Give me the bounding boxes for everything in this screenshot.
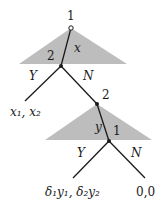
offer-label-y: y [94,120,102,134]
reject-label-2: N [130,146,142,160]
offer-triangle-1 [19,28,127,64]
payoff-accept-2: δ₁y₁, δ₂y₂ [45,185,100,199]
root-player-label: 1 [67,9,75,23]
responder-2-player-label: 1 [113,124,121,138]
proposer-2-player-label: 2 [102,88,110,102]
responder-node-2 [107,139,111,143]
accept-label-2: Y [77,146,86,160]
responder-node-1 [59,64,63,68]
offer-label-x: x [74,41,81,55]
payoff-reject-2: 0,0 [136,185,155,199]
reject-label-1: N [82,69,94,83]
proposer-node-2 [95,102,99,106]
payoff-accept-1: x₁, x₂ [10,105,41,119]
game-tree: 1 x 2 Y N x₁, x₂ 2 y 1 Y N δ₁y₁, δ₂y₂ 0,… [0,0,164,209]
responder-1-player-label: 2 [47,49,55,63]
accept-label-1: Y [29,69,38,83]
root-node [69,26,73,30]
